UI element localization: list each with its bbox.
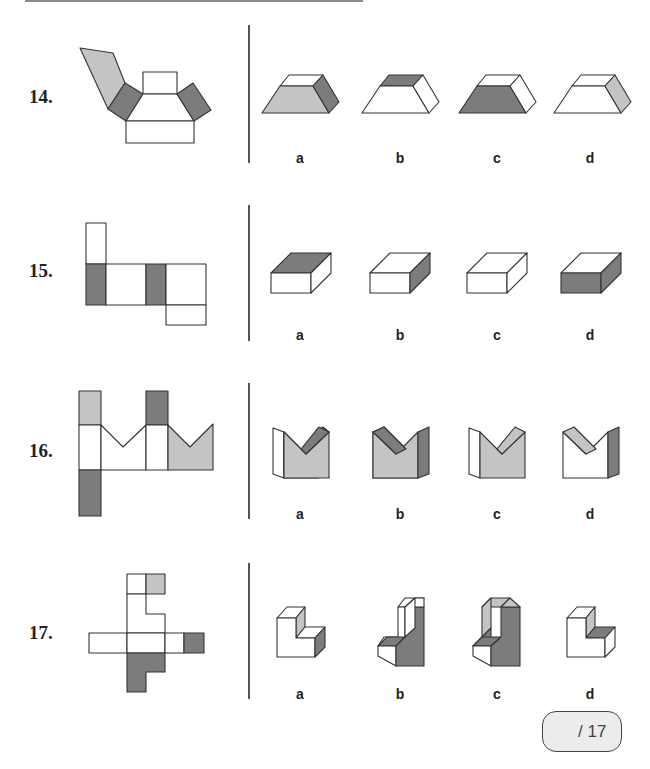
question-16-option-b[interactable] xyxy=(373,427,429,478)
question-17-option-d-label: d xyxy=(580,686,600,702)
question-17-option-a[interactable] xyxy=(277,607,325,657)
question-15-option-d-label: d xyxy=(580,327,600,343)
question-16-net xyxy=(79,391,213,516)
question-14-option-d[interactable] xyxy=(554,75,631,113)
question-17-option-b-label: b xyxy=(390,686,410,702)
question-17-option-b[interactable] xyxy=(378,598,424,666)
question-14-option-b[interactable] xyxy=(362,75,439,113)
question-15-option-c-label: c xyxy=(487,327,507,343)
question-16-option-a-label: a xyxy=(290,506,310,522)
question-14-option-a-label: a xyxy=(290,150,310,166)
question-15-option-b-label: b xyxy=(390,327,410,343)
question-16-option-c-label: c xyxy=(487,506,507,522)
question-14-net xyxy=(80,48,211,143)
question-15-option-d[interactable] xyxy=(561,253,621,293)
question-17-option-c[interactable] xyxy=(473,598,520,666)
question-16-option-d[interactable] xyxy=(563,427,619,478)
question-17-option-a-label: a xyxy=(290,686,310,702)
question-15-option-b[interactable] xyxy=(370,253,430,293)
question-16-option-b-label: b xyxy=(390,506,410,522)
question-14-option-a[interactable] xyxy=(262,75,339,113)
question-15-option-c[interactable] xyxy=(467,253,527,293)
question-15-option-a-label: a xyxy=(290,327,310,343)
question-17-net xyxy=(89,574,204,692)
question-14-option-c[interactable] xyxy=(459,75,536,113)
score-label: / 17 xyxy=(578,722,606,742)
question-14-option-d-label: d xyxy=(580,150,600,166)
figures-canvas xyxy=(0,0,650,769)
question-16-option-a[interactable] xyxy=(273,427,329,478)
question-17-option-d[interactable] xyxy=(567,607,615,657)
question-16-option-c[interactable] xyxy=(469,427,525,478)
question-15-net xyxy=(86,223,206,325)
question-17-option-c-label: c xyxy=(487,686,507,702)
score-box: / 17 xyxy=(542,711,622,752)
question-14-option-c-label: c xyxy=(487,150,507,166)
question-14-option-b-label: b xyxy=(390,150,410,166)
question-15-option-a[interactable] xyxy=(271,253,331,293)
question-16-option-d-label: d xyxy=(580,506,600,522)
